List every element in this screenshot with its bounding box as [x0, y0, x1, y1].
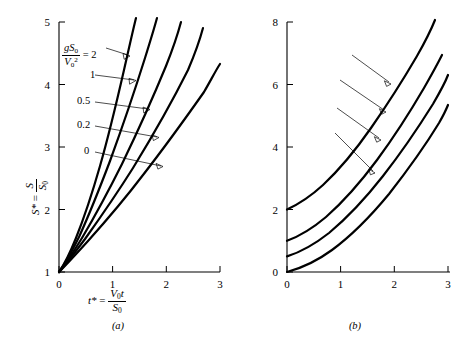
- ylabel-lhs-a: S*: [29, 204, 41, 215]
- xtick-label-b-2: 2: [392, 278, 398, 290]
- chart-panel-a: 1 2 3 4 5 0 1 2 3 gS0 V02 = 2 1: [0, 0, 236, 344]
- legend-value-row-a-1: 1: [90, 69, 95, 80]
- xtick-label-a-0: 0: [56, 278, 62, 290]
- panel-caption-a: (a): [0, 320, 236, 331]
- ytick-label-a-3: 3: [45, 141, 51, 153]
- ytick-label-b-6: 6: [273, 79, 279, 91]
- ylabel-eq-a: =: [29, 195, 41, 201]
- legend-a: gS0 V02 = 2 1 0.5 0.2 0: [62, 42, 96, 70]
- arrowhead-a-0: [156, 163, 163, 169]
- ytick-label-b-0: 0: [273, 266, 279, 278]
- legend-value-a-2: 0.5: [77, 95, 90, 106]
- plot-svg-a: 1 2 3 4 5 0 1 2 3: [0, 0, 236, 300]
- ytick-label-a-1: 1: [45, 266, 51, 278]
- panel-caption-b: (b): [237, 320, 473, 331]
- legend-value-a-0: 2: [91, 49, 96, 60]
- legend-value-a-4: 0: [84, 145, 89, 156]
- x-axis-label-a: t* = V0t S0: [88, 288, 126, 314]
- ytick-label-b-2: 2: [273, 204, 279, 216]
- leader-a-0_2: [95, 126, 157, 137]
- figure-container: 1 2 3 4 5 0 1 2 3 gS0 V02 = 2 1: [0, 0, 473, 344]
- xlabel-lhs-a: t*: [88, 294, 97, 306]
- ytick-label-a-4: 4: [45, 79, 51, 91]
- legend-value-a-1: 1: [90, 69, 95, 80]
- xtick-label-b-3: 3: [445, 278, 451, 290]
- legend-value-row-a-4: 0: [84, 145, 89, 156]
- ylabel-num-a: S: [23, 183, 35, 189]
- xlabel-V-a: V: [110, 287, 117, 299]
- curves-b: [287, 20, 448, 272]
- ytick-label-b-4: 4: [273, 141, 279, 153]
- xtick-label-a-2: 2: [164, 278, 170, 290]
- ytick-label-a-5: 5: [45, 16, 51, 28]
- xtick-label-b-0: 0: [284, 278, 290, 290]
- legend-V-sup-a: 2: [74, 56, 78, 64]
- legend-value-a-3: 0.2: [77, 119, 90, 130]
- legend-S-sub-a: 0: [75, 47, 79, 55]
- legend-formula-a: gS0 V02 = 2: [62, 42, 96, 70]
- leader-b-0_5: [337, 108, 379, 138]
- legend-value-row-a-2: 0.5: [77, 95, 90, 106]
- xtick-label-b-1: 1: [338, 278, 344, 290]
- leader-a-1: [95, 75, 134, 80]
- arrowhead-b-0_5: [374, 137, 381, 143]
- xtick-label-a-3: 3: [217, 278, 223, 290]
- leader-a-0_5: [95, 102, 148, 109]
- ylabel-den-sub-a: 0: [40, 181, 49, 185]
- ytick-label-b-8: 8: [273, 16, 279, 28]
- y-axis-label-a: S* = S S0: [24, 179, 49, 215]
- tick-labels-b: 0 2 4 6 8 0 1 2 3: [273, 16, 452, 290]
- axes-b: [287, 22, 450, 272]
- leader-b-2: [352, 55, 389, 82]
- ylabel-den-a: S: [36, 185, 48, 191]
- legend-equals-a: =: [83, 49, 89, 60]
- arrowhead-b-2: [384, 81, 391, 87]
- leader-a-0: [95, 152, 161, 166]
- xlabel-t-a: t: [121, 287, 124, 299]
- legend-leaders-b: [335, 55, 391, 175]
- plot-svg-b: 0 2 4 6 8 0 1 2 3: [237, 0, 473, 300]
- xlabel-S-sub-a: 0: [118, 306, 122, 315]
- xlabel-eq-a: =: [99, 294, 105, 306]
- legend-value-row-a-3: 0.2: [77, 119, 90, 130]
- curve-b-1: [287, 55, 442, 241]
- chart-panel-b: 0 2 4 6 8 0 1 2 3 gS0 V02 = 2 1: [237, 0, 473, 344]
- leader-b-1: [340, 80, 384, 110]
